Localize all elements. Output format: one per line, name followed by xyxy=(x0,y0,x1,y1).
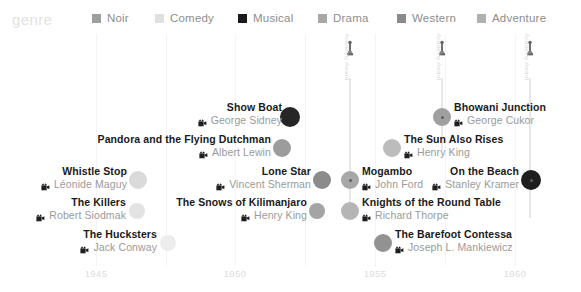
film-label-group: On the BeachStanley Kramer xyxy=(432,165,519,191)
film-director-row: Stanley Kramer xyxy=(432,178,519,191)
axis-tick-label: 1950 xyxy=(224,268,247,279)
film-node[interactable]: On the BeachStanley Kramer xyxy=(0,0,581,292)
film-title: On the Beach xyxy=(432,165,519,178)
axis-tick-label: 1955 xyxy=(364,268,387,279)
axis-tick-label: 1960 xyxy=(504,268,527,279)
film-director: Stanley Kramer xyxy=(445,178,519,191)
movie-camera-icon xyxy=(432,181,441,189)
oscar-winner-marker-dot xyxy=(530,179,533,182)
axis-tick-label: 1945 xyxy=(85,268,108,279)
timeline-scatter-chart: genre NoirComedyMusicalDramaWesternAdven… xyxy=(0,0,581,292)
